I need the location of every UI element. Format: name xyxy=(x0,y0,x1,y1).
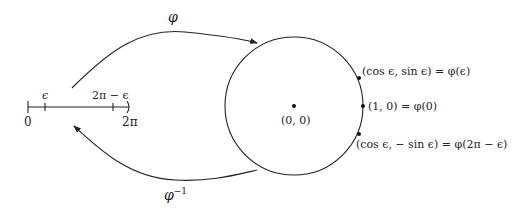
label-point-phi-2pi-minus-eps: (cos ϵ, − sin ϵ) = φ(2π − ϵ) xyxy=(356,138,507,151)
label-point-phi-eps: (cos ϵ, sin ϵ) = φ(ϵ) xyxy=(362,65,470,78)
label-2pi: 2π xyxy=(122,115,138,129)
point-phi-eps xyxy=(357,76,361,80)
label-inverse-superscript: −1 xyxy=(174,186,187,196)
interval: 0 2π ϵ 2π − ϵ xyxy=(24,89,138,129)
label-center: (0, 0) xyxy=(281,114,311,127)
unit-circle: (0, 0) (cos ϵ, sin ϵ) = φ(ϵ) (1, 0) = φ(… xyxy=(225,37,507,175)
label-0: 0 xyxy=(24,115,32,129)
point-phi-0 xyxy=(361,104,365,108)
circle-parametrization-diagram: 0 2π ϵ 2π − ϵ φ φ−1 (0, 0) (cos ϵ, sin ϵ… xyxy=(0,0,514,208)
center-point xyxy=(292,104,296,108)
label-point-phi-0: (1, 0) = φ(0) xyxy=(368,100,437,113)
forward-map-arrow: φ xyxy=(72,9,257,88)
inverse-map-arrow: φ−1 xyxy=(74,126,257,203)
label-eps: ϵ xyxy=(42,89,48,102)
label-phi: φ xyxy=(168,9,178,25)
point-phi-2pi-minus-eps xyxy=(357,132,361,136)
label-2pi-minus-eps: 2π − ϵ xyxy=(92,89,129,102)
label-phi-inverse: φ−1 xyxy=(164,186,187,203)
